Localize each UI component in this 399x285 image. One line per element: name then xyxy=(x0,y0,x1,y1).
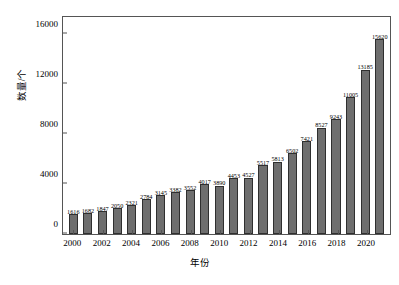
bar-slot: 2784 xyxy=(139,17,154,234)
bar-value-label: 11005 xyxy=(343,92,358,98)
bar-value-label: 5517 xyxy=(257,160,269,166)
bar-value-label: 4017 xyxy=(198,179,210,185)
plot-area: 0400080001200016000 16161682184720502321… xyxy=(62,16,391,235)
x-axis-tick-label: 2018 xyxy=(328,238,346,248)
bar-value-label: 15620 xyxy=(372,34,387,40)
bar-slot: 9243 xyxy=(329,17,344,234)
bar[interactable]: 4017 xyxy=(200,184,209,234)
bar[interactable]: 13185 xyxy=(361,70,370,234)
bar-value-label: 4453 xyxy=(228,173,240,179)
bar-slot: 3890 xyxy=(212,17,227,234)
bar-value-label: 7421 xyxy=(301,136,313,142)
bar-value-label: 3890 xyxy=(213,180,225,186)
bar-value-label: 9243 xyxy=(330,114,342,120)
bar[interactable]: 3382 xyxy=(171,192,180,234)
bar[interactable]: 2050 xyxy=(113,208,122,234)
chart-page: 数量/个 0400080001200016000 161616821847205… xyxy=(0,0,399,285)
y-axis-tick-label: 4000 xyxy=(40,169,63,179)
x-axis-tick-mark xyxy=(279,230,280,234)
bar-slot: 13185 xyxy=(358,17,373,234)
bar[interactable]: 2784 xyxy=(142,199,151,234)
bar-value-label: 1682 xyxy=(82,208,94,214)
x-axis-tick-label: 2000 xyxy=(63,238,81,248)
bar-value-label: 8527 xyxy=(315,122,327,128)
bar-slot: 3382 xyxy=(168,17,183,234)
bar-slot: 1682 xyxy=(81,17,96,234)
bar[interactable]: 6502 xyxy=(288,153,297,234)
bar-slot: 1616 xyxy=(66,17,81,234)
bar-value-label: 3145 xyxy=(155,190,167,196)
bar-slot: 2050 xyxy=(110,17,125,234)
y-axis-tick-label: 0 xyxy=(54,219,64,229)
bar[interactable]: 1682 xyxy=(83,213,92,234)
bar-value-label: 1847 xyxy=(96,206,108,212)
bar[interactable]: 4453 xyxy=(229,178,238,234)
bar-slot: 4527 xyxy=(241,17,256,234)
bar-slot: 3145 xyxy=(154,17,169,234)
x-axis-tick-mark xyxy=(191,230,192,234)
x-axis-tick-mark xyxy=(132,230,133,234)
bar-value-label: 2050 xyxy=(111,203,123,209)
bar-slot: 1847 xyxy=(95,17,110,234)
x-axis-tick-label: 2004 xyxy=(122,238,140,248)
x-axis-tick-label: 2020 xyxy=(357,238,375,248)
y-axis-tick-label: 12000 xyxy=(36,69,64,79)
bar-slot: 8527 xyxy=(314,17,329,234)
x-axis-tick-mark xyxy=(367,230,368,234)
x-axis-tick-mark xyxy=(250,230,251,234)
bar-slot: 4017 xyxy=(197,17,212,234)
y-axis-tick-label: 8000 xyxy=(40,119,63,129)
bar-value-label: 6502 xyxy=(286,148,298,154)
x-axis-tick-label: 2014 xyxy=(269,238,287,248)
bar[interactable]: 7421 xyxy=(302,141,311,234)
bar[interactable]: 5813 xyxy=(273,162,282,234)
bar-slot: 7421 xyxy=(300,17,315,234)
bar-slot: 2321 xyxy=(124,17,139,234)
bar-slot: 4453 xyxy=(227,17,242,234)
y-axis-title: 数量/个 xyxy=(14,40,28,130)
x-axis-tick-mark xyxy=(338,230,339,234)
bar[interactable]: 3890 xyxy=(215,186,224,235)
bar-value-label: 5813 xyxy=(271,156,283,162)
bar-slot: 6502 xyxy=(285,17,300,234)
x-axis-tick-mark xyxy=(161,230,162,234)
bar-slot: 11005 xyxy=(343,17,358,234)
bar-slot: 5517 xyxy=(256,17,271,234)
bar-value-label: 3382 xyxy=(169,187,181,193)
bar[interactable]: 4527 xyxy=(244,178,253,234)
x-axis-tick-mark xyxy=(220,230,221,234)
x-axis-tick-label: 2010 xyxy=(210,238,228,248)
x-axis-tick-label: 2002 xyxy=(93,238,111,248)
x-axis-tick-label: 2012 xyxy=(240,238,258,248)
x-axis-tick-mark xyxy=(103,230,104,234)
x-axis-title: 年份 xyxy=(0,255,399,269)
bar[interactable]: 9243 xyxy=(331,119,340,234)
x-axis-tick-label: 2008 xyxy=(181,238,199,248)
bar[interactable]: 15620 xyxy=(375,39,384,234)
x-axis-tick-mark xyxy=(308,230,309,234)
x-axis-tick-label: 2016 xyxy=(298,238,316,248)
bar-series: 1616168218472050232127843145338235524017… xyxy=(63,17,390,234)
x-axis-tick-mark xyxy=(73,230,74,234)
bar[interactable]: 5517 xyxy=(258,165,267,234)
bar-value-label: 4527 xyxy=(242,172,254,178)
bar-value-label: 13185 xyxy=(357,64,372,70)
bar-value-label: 3552 xyxy=(184,185,196,191)
bar-value-label: 2321 xyxy=(125,200,137,206)
bar-value-label: 1616 xyxy=(67,209,79,215)
bar[interactable]: 8527 xyxy=(317,128,326,234)
bar-value-label: 2784 xyxy=(140,194,152,200)
bar-slot: 5813 xyxy=(270,17,285,234)
bar[interactable]: 3145 xyxy=(156,195,165,234)
y-axis-tick-label: 16000 xyxy=(36,19,64,29)
bar[interactable]: 11005 xyxy=(346,97,355,234)
x-axis-tick-label: 2006 xyxy=(151,238,169,248)
bar-slot: 3552 xyxy=(183,17,198,234)
bar[interactable]: 3552 xyxy=(186,190,195,234)
bar-slot: 15620 xyxy=(372,17,387,234)
